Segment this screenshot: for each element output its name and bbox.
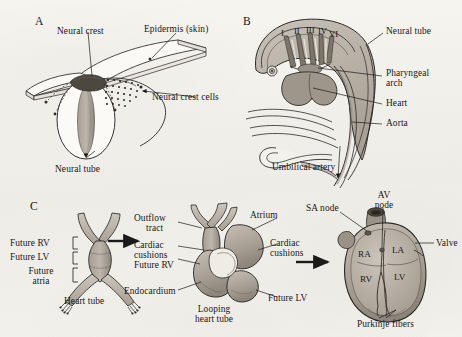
- panel-c-illustration: [59, 203, 434, 322]
- label-future-lv-bracket: Future LV: [10, 252, 49, 262]
- label-aorta: Aorta: [386, 118, 408, 128]
- arch-numeral-i: I: [281, 28, 284, 38]
- label-pharyngeal-arch-line2: arch: [386, 78, 403, 88]
- arch-numeral-iii: III: [306, 25, 315, 35]
- label-outflow-tract-line1: Outflow: [134, 213, 166, 223]
- label-cardiac-cushions-left-line2: cushions: [134, 250, 168, 260]
- label-future-rv: Future RV: [134, 260, 174, 270]
- label-endocardium: Endocardium: [124, 286, 176, 296]
- label-neural-crest: Neural crest: [57, 26, 104, 36]
- sa-node-marker: [365, 231, 371, 235]
- label-future-rv-bracket: Future RV: [10, 238, 50, 248]
- panel-letter-a: A: [35, 15, 43, 27]
- label-sa-node: SA node: [306, 203, 339, 213]
- label-looping-heart-tube-line2: heart tube: [180, 314, 248, 324]
- label-atrium: Atrium: [250, 210, 278, 220]
- embryo-heart: [282, 72, 337, 106]
- panel-letter-c: C: [30, 200, 38, 212]
- figure-canvas: A B C Neural crest Epidermis (skin) Neur…: [0, 0, 462, 337]
- arch-numeral-ii: II: [294, 26, 300, 36]
- label-purkinje-fibers: Purkinje fibers: [357, 319, 414, 329]
- neural-tube-lumen: [78, 88, 95, 154]
- label-outflow-tract-line2: tract: [146, 223, 163, 233]
- heart-tube-brackets: [73, 237, 78, 282]
- label-neural-tube-a: Neural tube: [55, 164, 100, 174]
- label-heart-tube: Heart tube: [64, 296, 104, 306]
- chamber-label-rv: RV: [360, 274, 372, 284]
- label-cardiac-cushions-right-line2: cushions: [270, 248, 304, 258]
- av-node-marker: [380, 248, 385, 252]
- label-epidermis: Epidermis (skin): [144, 24, 208, 34]
- label-av-node-line1: AV: [370, 190, 398, 200]
- embryo-trunk: [246, 109, 338, 148]
- label-valve: Valve: [436, 238, 458, 248]
- label-neural-crest-cells: Neural crest cells: [152, 92, 219, 102]
- embryo-eye: [267, 66, 277, 76]
- chamber-label-ra: RA: [358, 249, 371, 259]
- label-cardiac-cushions-left-line1: Cardiac: [134, 240, 164, 250]
- four-chambered-heart-stage: [338, 208, 426, 322]
- arch-numeral-iv: IV: [318, 26, 327, 36]
- label-neural-tube-b: Neural tube: [386, 26, 431, 36]
- label-future-atria-bracket: Future atria: [12, 266, 70, 286]
- label-future-lv: Future LV: [268, 293, 307, 303]
- label-looping-heart-tube-line1: Looping: [186, 304, 242, 314]
- chamber-label-lv: LV: [394, 272, 405, 282]
- label-av-node-line2: node: [368, 200, 400, 210]
- label-umbilical-artery: Umbilical artery: [272, 162, 335, 172]
- arch-numeral-vi: VI: [329, 29, 338, 39]
- panel-letter-b: B: [243, 15, 251, 27]
- label-heart-b: Heart: [386, 98, 407, 108]
- label-pharyngeal-arch-line1: Pharyngeal: [386, 68, 429, 78]
- label-cardiac-cushions-right-line1: Cardiac: [270, 238, 300, 248]
- chamber-label-la: LA: [392, 245, 404, 255]
